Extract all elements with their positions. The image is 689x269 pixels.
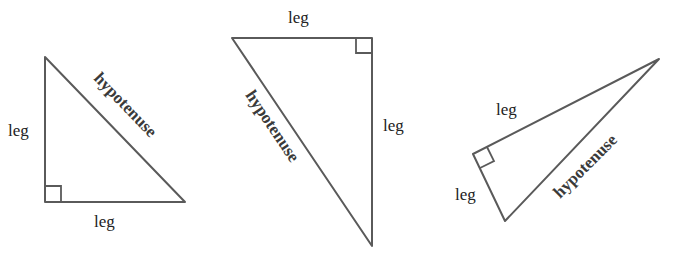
right-angle-marker: [45, 186, 61, 202]
leg-label: leg: [496, 100, 517, 119]
leg-label: leg: [455, 185, 476, 204]
triangle-3: leg leg hypotenuse: [455, 59, 659, 221]
triangle-1-outline: [45, 57, 185, 202]
hypotenuse-label: hypotenuse: [90, 69, 161, 142]
right-angle-marker: [356, 38, 372, 53]
triangle-1: leg leg hypotenuse: [8, 57, 185, 231]
right-triangles-diagram: leg leg hypotenuse leg leg hypotenuse le…: [0, 0, 689, 269]
triangle-2-outline: [232, 38, 372, 246]
hypotenuse-label: hypotenuse: [549, 130, 621, 202]
leg-label: leg: [94, 212, 115, 231]
leg-label: leg: [8, 121, 29, 140]
leg-label: leg: [383, 116, 404, 135]
leg-label: leg: [288, 8, 309, 27]
triangle-2: leg leg hypotenuse: [232, 8, 404, 246]
